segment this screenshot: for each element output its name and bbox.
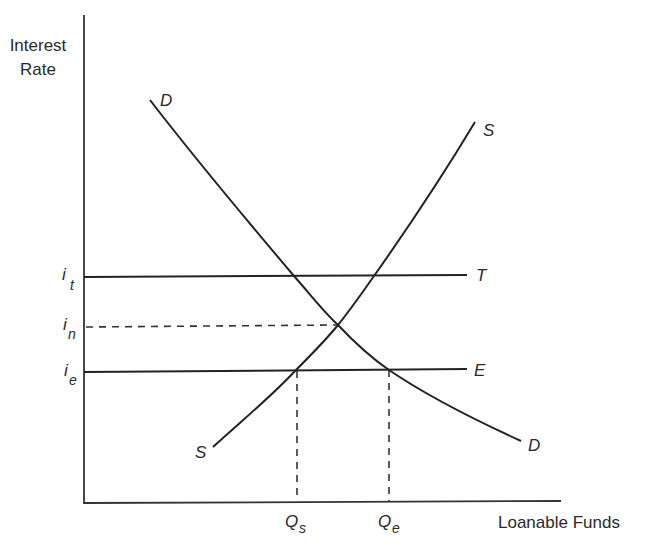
tick-qe-sub: e [392, 520, 400, 536]
demand-curve-label-top: D [160, 91, 172, 110]
tick-qs-base: Q [285, 512, 298, 531]
tick-label-ie: i e [64, 361, 77, 388]
tick-label-it: i t [62, 265, 75, 293]
tick-qe-base: Q [378, 512, 391, 531]
tick-ie-sub: e [69, 372, 77, 388]
tick-label-qs: Q s [285, 512, 306, 536]
x-axis-title: Loanable Funds [498, 513, 620, 532]
in-dashed-line [86, 325, 336, 327]
tick-it-sub: t [70, 277, 75, 293]
e-line-label: E [474, 361, 486, 380]
y-axis-title-line2: Rate [20, 60, 56, 79]
tick-it-base: i [62, 265, 67, 284]
tick-in-sub: n [68, 326, 76, 342]
supply-curve-label-top: S [483, 121, 495, 140]
x-axis [84, 501, 561, 503]
t-line [84, 275, 467, 277]
loanable-funds-diagram: Interest Rate Loanable Funds T E D D S S… [0, 0, 657, 553]
supply-curve-label-bottom: S [195, 443, 207, 462]
e-line [84, 369, 467, 372]
demand-curve [150, 100, 521, 441]
tick-qs-sub: s [299, 520, 306, 536]
tick-label-in: i n [63, 315, 76, 342]
demand-curve-label-bottom: D [528, 436, 540, 455]
tick-label-qe: Q e [378, 512, 400, 536]
t-line-label: T [476, 266, 488, 285]
y-axis-title-line1: Interest [10, 36, 67, 55]
